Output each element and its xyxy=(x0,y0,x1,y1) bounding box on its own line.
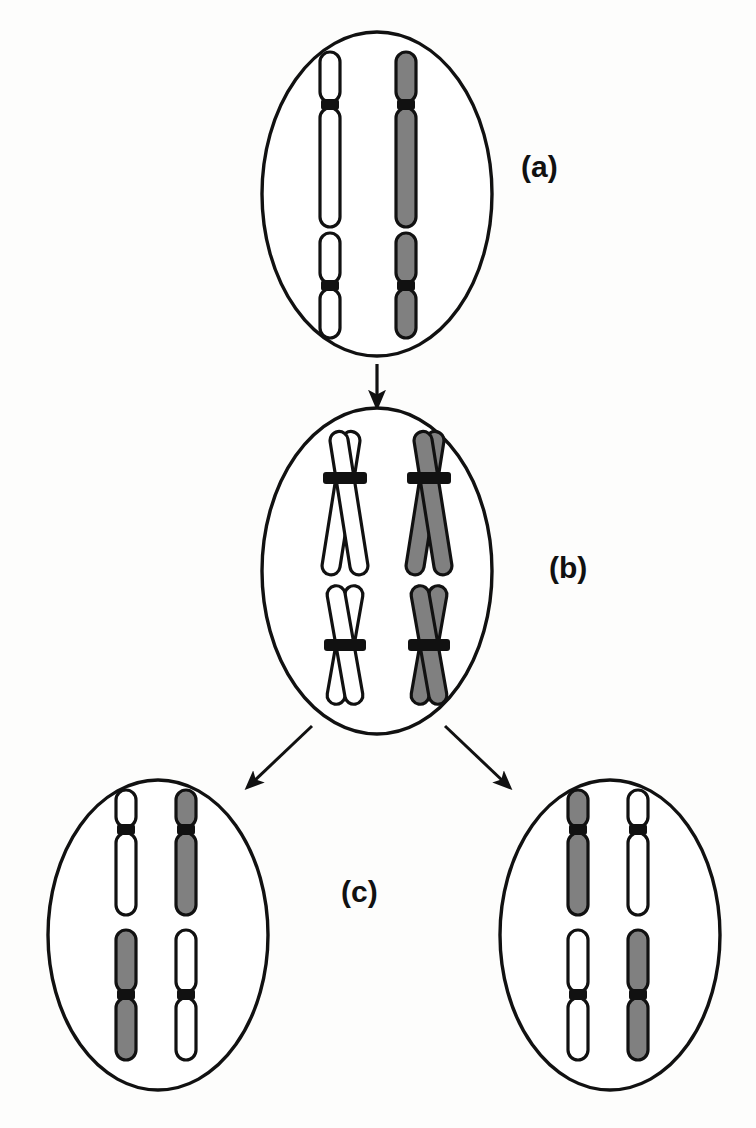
centromere xyxy=(629,824,647,835)
chromosome-b-short-gray xyxy=(408,584,450,705)
chromosome-cl-long-gray xyxy=(176,790,196,915)
chromosome-cl-long-white xyxy=(116,790,136,915)
chromosome-cr-short-gray xyxy=(628,930,648,1060)
chromosome-cr-long-gray xyxy=(568,790,588,915)
stage-label-a: (a) xyxy=(521,150,558,184)
centromere xyxy=(407,472,451,484)
centromere xyxy=(629,989,647,1000)
centromere xyxy=(569,989,587,1000)
chromosome-a-long-gray xyxy=(396,52,416,227)
chromosome-a-short-white xyxy=(320,233,340,338)
centromere xyxy=(321,280,339,291)
daughter-cell-right xyxy=(500,780,720,1090)
chromosome-cr-long-white xyxy=(628,790,648,915)
replicated-cell-membrane xyxy=(262,408,492,734)
centromere xyxy=(177,989,195,1000)
centromere xyxy=(117,824,135,835)
chromosome-b-short-white xyxy=(324,584,366,705)
chromosome-cl-short-white xyxy=(176,930,196,1060)
arrow-replicated-to-right-daughter xyxy=(445,726,505,783)
daughter-cell-left-membrane xyxy=(48,780,268,1090)
centromere xyxy=(177,824,195,835)
centromere xyxy=(397,99,415,110)
parent-cell xyxy=(262,32,492,356)
stage-label-b: (b) xyxy=(549,551,587,585)
centromere xyxy=(321,99,339,110)
centromere xyxy=(324,639,366,651)
arrow-replicated-to-left-daughter xyxy=(252,726,312,783)
chromosome-a-short-gray xyxy=(396,233,416,338)
centromere xyxy=(117,989,135,1000)
stage-label-c: (c) xyxy=(341,875,378,909)
centromere xyxy=(569,824,587,835)
daughter-cell-left xyxy=(48,780,268,1090)
centromere xyxy=(408,639,450,651)
chromosome-division-figure: (a) (b) (c) xyxy=(0,0,756,1128)
centromere xyxy=(323,472,367,484)
replicated-cell xyxy=(262,408,492,734)
figure-canvas xyxy=(0,0,756,1128)
centromere xyxy=(397,280,415,291)
chromosome-cl-short-gray xyxy=(116,930,136,1060)
chromosome-a-long-white xyxy=(320,52,340,227)
chromosome-cr-short-white xyxy=(568,930,588,1060)
parent-cell-membrane xyxy=(262,32,492,356)
daughter-cell-right-membrane xyxy=(500,780,720,1090)
